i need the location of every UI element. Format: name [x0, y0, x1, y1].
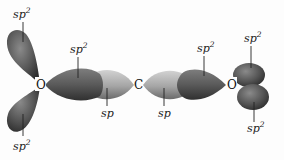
orbital-lobe-right-top-sp2 — [233, 63, 265, 87]
label-right-top: sp2 — [244, 30, 262, 45]
orbital-lobe-right-bond-sp2 — [177, 70, 226, 100]
label-carbon-left: sp — [101, 107, 114, 120]
label-left-top: sp2 — [13, 6, 31, 21]
label-right-bottom: sp2 — [247, 120, 265, 135]
orbital-diagram: O C O sp2 sp2 sp2 sp sp sp2 sp2 sp2 — [0, 0, 284, 160]
atom-oxygen-left: O — [36, 78, 46, 92]
orbital-lobe-left-bond-sp2 — [45, 69, 103, 101]
label-left-bond: sp2 — [70, 41, 88, 56]
label-left-bottom: sp2 — [13, 138, 31, 153]
orbital-lobe-left-bottom-sp2 — [7, 86, 40, 132]
label-right-bond: sp2 — [197, 40, 215, 55]
atom-carbon: C — [134, 78, 143, 92]
orbital-lobe-right-bottom-sp2 — [237, 84, 269, 110]
orbital-lobe-left-top-sp2 — [7, 30, 40, 84]
atom-oxygen-right: O — [227, 78, 237, 92]
label-carbon-right: sp — [158, 107, 171, 120]
